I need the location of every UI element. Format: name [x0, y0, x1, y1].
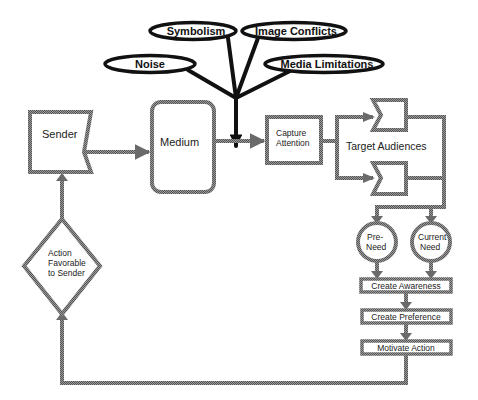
sender-label: Sender [42, 128, 78, 140]
node-create-preference: Create Preference [362, 310, 451, 323]
current-need-label-2: Need [420, 242, 441, 252]
symbolism-line [228, 38, 236, 98]
current-need-label-1: Current [418, 232, 447, 242]
node-motivate-action: Motivate Action [362, 341, 451, 354]
target-audience-box-top [373, 100, 406, 130]
noise-label: Noise [135, 58, 165, 70]
pre-need-label-1: Pre- [367, 232, 383, 242]
create-preference-label: Create Preference [371, 312, 441, 322]
node-capture-attention: Capture Attention [267, 117, 321, 163]
node-action-favorable: Action Favorable to Sender [24, 219, 100, 314]
node-current-need: Current Need [412, 223, 450, 261]
medium-label: Medium [160, 136, 199, 148]
communication-diagram: Noise Symbolism Image Conflicts Media Li… [0, 0, 478, 400]
capture-label-1: Capture [276, 128, 307, 138]
node-pre-need: Pre- Need [358, 223, 396, 261]
action-label-2: Favorable [48, 258, 86, 268]
create-awareness-label: Create Awareness [371, 281, 440, 291]
media-limitations-label: Media Limitations [281, 58, 374, 70]
target-audience-box-bottom [373, 163, 406, 194]
oval-noise: Noise [105, 56, 195, 73]
oval-symbolism: Symbolism [150, 23, 236, 40]
pre-need-label-2: Need [366, 242, 387, 252]
action-label-1: Action [48, 248, 72, 258]
node-create-awareness: Create Awareness [361, 279, 451, 292]
action-label-3: to Sender [48, 268, 85, 278]
noise-line [188, 70, 236, 98]
oval-media-limitations: Media Limitations [265, 56, 383, 73]
capture-label-2: Attention [276, 138, 310, 148]
motivate-action-label: Motivate Action [377, 343, 435, 353]
node-medium: Medium [152, 102, 214, 192]
node-sender: Sender [30, 112, 91, 172]
target-audiences-label: Target Audiences [346, 140, 427, 152]
oval-image-conflicts: Image Conflicts [242, 23, 346, 40]
image-conflicts-label: Image Conflicts [255, 25, 337, 37]
symbolism-label: Symbolism [167, 25, 226, 37]
